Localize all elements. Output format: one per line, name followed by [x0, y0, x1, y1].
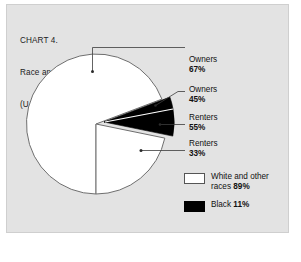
callout-black-renters-value: 55%	[189, 123, 218, 133]
legend-label-black-text: Black	[211, 200, 231, 209]
legend-item-black: Black 11%	[184, 200, 249, 212]
callout-black-owners-value: 45%	[189, 95, 217, 105]
callout-white-renters-value: 33%	[189, 149, 218, 159]
legend-label-black: Black 11%	[211, 200, 249, 210]
callout-white-renters: Renters 33%	[189, 139, 218, 159]
legend-item-white: White and other races 89%	[184, 172, 269, 192]
legend-swatch-black-icon	[184, 201, 205, 212]
chart-panel: CHART 4. Race and tenure: 1983 (U.S. tot…	[6, 4, 289, 233]
legend-label-white: White and other races 89%	[211, 172, 269, 192]
legend-label-white-line2: races	[211, 182, 231, 191]
legend-value-white: 89%	[233, 182, 249, 191]
callout-black-renters-label: Renters	[189, 113, 218, 123]
legend-swatch-white-icon	[184, 173, 205, 184]
callout-white-owners-value: 67%	[189, 65, 217, 75]
legend-label-white-line1: White and other	[211, 172, 269, 181]
white-renters-slice	[96, 124, 165, 194]
callout-black-renters: Renters 55%	[189, 113, 218, 133]
callout-black-owners-label: Owners	[189, 85, 217, 95]
legend-value-black: 11%	[233, 200, 249, 209]
callout-white-owners: Owners 67%	[189, 55, 217, 75]
callout-black-owners: Owners 45%	[189, 85, 217, 105]
callout-white-renters-label: Renters	[189, 139, 218, 149]
callout-white-owners-label: Owners	[189, 55, 217, 65]
